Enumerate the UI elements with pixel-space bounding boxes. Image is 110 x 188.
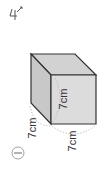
cube-diagram	[0, 0, 110, 188]
handwritten-mark-icon	[10, 7, 22, 20]
problem-number-icon	[12, 147, 24, 159]
height-label: 7cm	[57, 89, 69, 110]
depth-label: 7cm	[26, 118, 38, 139]
width-label: 7cm	[66, 131, 78, 152]
